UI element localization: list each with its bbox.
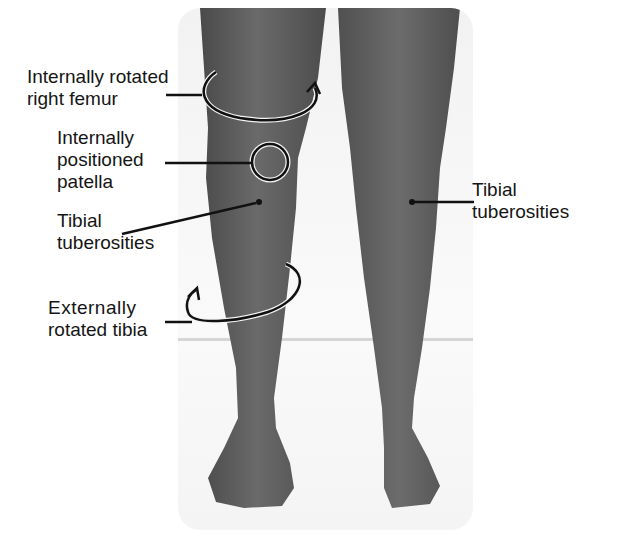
label-femur: Internally rotated right femur: [27, 66, 169, 110]
legs-photo: [178, 8, 473, 530]
label-femur-line2: right femur: [27, 88, 169, 110]
label-femur-line1: Internally rotated: [27, 66, 169, 88]
label-tibial-left-line2: tuberosities: [57, 232, 154, 254]
label-patella-line3: patella: [57, 171, 144, 193]
label-patella: Internally positioned patella: [57, 127, 144, 193]
label-tibial-right-line2: tuberosities: [472, 201, 569, 223]
label-tibia-line2: rotated tibia: [48, 319, 147, 341]
label-tibial-right-line1: Tibial: [472, 179, 569, 201]
right-leg: [200, 8, 326, 508]
label-patella-line2: positioned: [57, 149, 144, 171]
label-tibia: Externally rotated tibia: [48, 297, 147, 341]
label-tibial-left-line1: Tibial: [57, 210, 154, 232]
photo-panel: [178, 8, 473, 530]
label-tibial-left: Tibial tuberosities: [57, 210, 154, 254]
left-leg: [338, 8, 460, 508]
label-patella-line1: Internally: [57, 127, 144, 149]
label-tibia-line1: Externally: [48, 297, 147, 319]
label-tibial-right: Tibial tuberosities: [472, 179, 569, 223]
